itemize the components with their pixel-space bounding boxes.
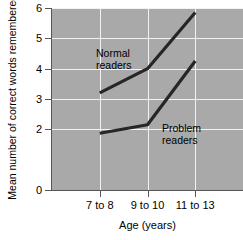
annotation-problem-readers: Problem readers	[162, 122, 201, 146]
chart-figure: Mean number of correct words remembered …	[0, 0, 243, 240]
y-axis-title: Mean number of correct words remembered	[0, 0, 24, 195]
y-tick-label: 2	[36, 124, 42, 135]
x-tick-label: 11 to 13	[176, 199, 215, 211]
x-tick-mark	[100, 191, 101, 197]
y-tick-label: 4	[36, 63, 42, 74]
x-tick-mark	[148, 191, 149, 197]
y-tick-mark	[45, 69, 52, 70]
series-lines	[52, 8, 243, 190]
x-tick-label: 7 to 8	[86, 199, 114, 211]
annotation-normal-readers: Normal readers	[96, 47, 132, 71]
y-tick-label: 6	[36, 3, 42, 14]
y-tick-label: 5	[36, 33, 42, 44]
y-tick-label: 0	[36, 185, 42, 196]
y-axis-title-text: Mean number of correct words remembered	[6, 0, 19, 200]
y-tick-mark	[45, 38, 52, 39]
y-tick-mark	[45, 8, 52, 9]
y-tick-mark	[45, 99, 52, 100]
x-tick-mark	[195, 191, 196, 197]
y-tick-label: 3	[36, 94, 42, 105]
y-tick-mark	[45, 190, 52, 191]
y-tick-mark	[45, 129, 52, 130]
x-axis-title: Age (years)	[52, 219, 243, 232]
plot-area: Normal readers Problem readers	[52, 8, 243, 190]
x-tick-label: 9 to 10	[131, 199, 165, 211]
y-axis-tick-labels: 023456	[24, 0, 44, 240]
